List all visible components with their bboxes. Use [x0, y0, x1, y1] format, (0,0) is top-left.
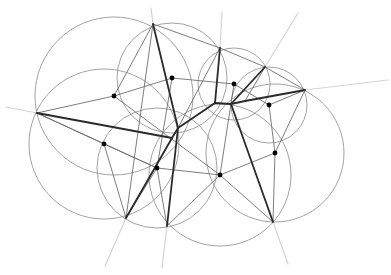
circumcenter-dot — [232, 82, 237, 87]
circumcenter-dot — [102, 142, 107, 147]
voronoi-edge — [153, 24, 178, 128]
voronoi-edges — [37, 24, 305, 226]
triangulation-edge — [157, 168, 167, 226]
delaunay-diagram-canvas — [0, 0, 391, 275]
voronoi-ray — [162, 226, 167, 268]
triangulation-edge — [275, 90, 305, 153]
triangulation-edge — [167, 175, 220, 226]
circumcenter-dot — [155, 166, 160, 171]
circumcenter-dot — [267, 103, 272, 108]
circumcenter-dot — [170, 76, 175, 81]
voronoi-ray — [6, 107, 37, 113]
triangulation-edge — [153, 24, 220, 48]
triangulation-edge — [245, 67, 265, 101]
voronoi-edge — [178, 103, 215, 128]
triangulation-edge — [126, 24, 153, 218]
triangulation-edge — [37, 113, 157, 168]
voronoi-ray — [151, 8, 153, 24]
voronoi-ray — [273, 222, 288, 264]
triangulation-edge — [220, 153, 275, 175]
circumcenter-dot — [273, 151, 278, 156]
circumcenter-dot — [218, 173, 223, 178]
voronoi-edge — [37, 113, 172, 138]
triangulation-edge — [269, 90, 305, 105]
voronoi-ray — [220, 12, 222, 48]
triangulation-edge — [37, 96, 114, 113]
voronoi-edge — [215, 103, 231, 104]
voronoi-ray — [105, 218, 126, 266]
delaunay-diagram — [0, 0, 391, 275]
triangulation-edge — [220, 84, 234, 175]
triangulation-edge — [157, 168, 220, 175]
voronoi-ray — [265, 13, 298, 67]
triangulation-edge — [273, 153, 275, 222]
voronoi-edge — [126, 138, 172, 218]
voronoi-rays — [6, 8, 388, 268]
triangulation-edge — [104, 144, 126, 218]
circumcenter-dot — [112, 94, 117, 99]
voronoi-ray — [305, 80, 388, 90]
